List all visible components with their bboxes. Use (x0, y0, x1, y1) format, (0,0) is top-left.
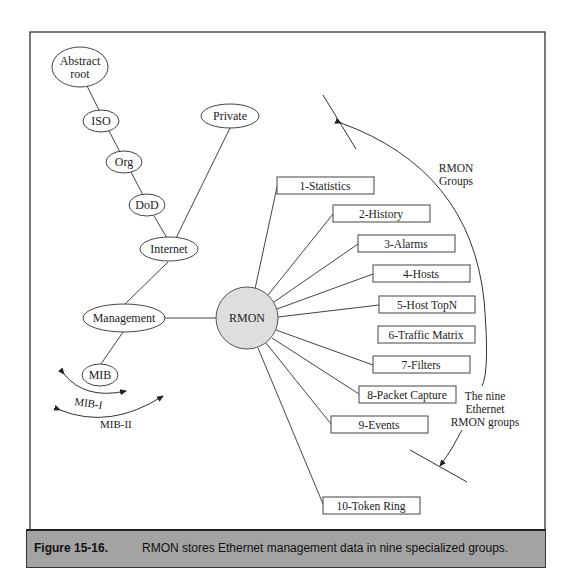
group-label-3: 3-Alarms (384, 238, 428, 250)
abstract-root-label-1: Abstract (60, 54, 101, 68)
group-label-4: 4-Hosts (403, 268, 439, 280)
dod-label: DoD (135, 198, 159, 212)
private-label: Private (213, 109, 247, 123)
rmon-groups-label-2: Groups (439, 175, 473, 188)
mib-label: MIB (89, 368, 112, 382)
internet-label: Internet (150, 242, 188, 256)
rmon-groups-label-1: RMON (439, 162, 474, 174)
group-label-7: 7-Filters (402, 359, 441, 371)
figure-label: Figure 15-16. (34, 541, 108, 555)
group-label-9: 9-Events (359, 419, 400, 431)
nine-groups-label-3: RMON groups (451, 416, 520, 429)
group-label-5: 5-Host TopN (397, 299, 458, 312)
group-label-2: 2-History (359, 208, 403, 221)
iso-label: ISO (91, 114, 111, 128)
group-label-1: 1-Statistics (299, 180, 351, 192)
group-label-6: 6-Traffic Matrix (388, 329, 463, 341)
rmon-label: RMON (229, 311, 265, 325)
mib2-label: MIB-II (100, 418, 132, 430)
abstract-root-label-2: root (70, 67, 90, 81)
rmon-diagram: Abstract root ISO Org DoD Internet Priva… (0, 0, 571, 585)
group-label-10: 10-Token Ring (336, 500, 405, 513)
group-label-8: 8-Packet Capture (367, 389, 447, 402)
management-label: Management (93, 311, 156, 325)
nine-groups-label-2: Ethernet (466, 403, 506, 415)
nine-groups-label-1: The nine (465, 390, 506, 402)
figure-caption-bar: Figure 15-16. RMON stores Ethernet manag… (26, 529, 546, 568)
figure-caption: RMON stores Ethernet management data in … (142, 541, 508, 555)
org-label: Org (115, 155, 133, 169)
